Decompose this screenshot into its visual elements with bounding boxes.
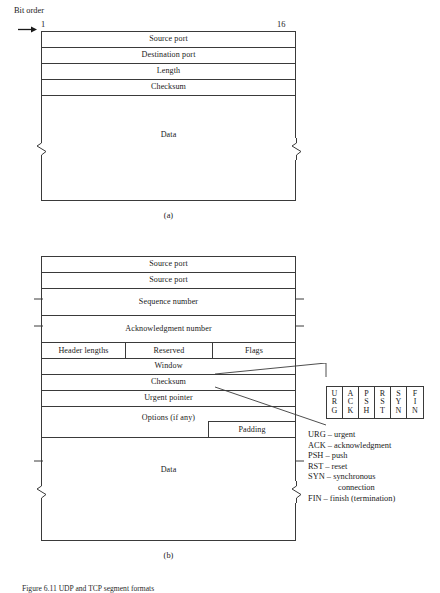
- break-symbol-icon: [35, 481, 48, 503]
- flag-cell-rst: R S T: [375, 387, 391, 418]
- tcp-cell-reserved: Reserved: [126, 343, 213, 358]
- udp-row-data: Data: [42, 96, 295, 200]
- tcp-row-source-port-1: Source port: [42, 257, 295, 273]
- legend-item-urg: URG – urgent: [308, 430, 395, 441]
- legend-item-fin: FIN – finish (termination): [308, 494, 395, 505]
- udp-row-source-port: Source port: [42, 32, 295, 48]
- bit-order-label: Bit order: [14, 6, 44, 15]
- field-extent-ticks: [34, 285, 304, 343]
- options-extent-ticks: [34, 455, 304, 467]
- tcp-cell-flags: Flags: [213, 343, 295, 358]
- legend-item-syn: SYN – synchronous: [308, 472, 395, 483]
- caption-a: (a): [41, 211, 296, 220]
- figure-caption: Figure 6.11 UDP and TCP segment formats: [22, 584, 154, 593]
- bit-order-arrow-icon: [18, 26, 38, 33]
- bit-start-label: 1: [41, 20, 45, 29]
- udp-row-destination-port: Destination port: [42, 48, 295, 64]
- tcp-row-flags-group: Header lengths Reserved Flags: [42, 343, 295, 359]
- flag-cell-fin: F I N: [407, 387, 423, 418]
- flags-detail-box: U R G A C K P S H R S T S Y N F I N: [326, 386, 424, 419]
- udp-packet-diagram: Source port Destination port Length Chec…: [41, 31, 296, 201]
- caption-b: (b): [41, 551, 296, 560]
- break-symbol-icon: [290, 481, 303, 503]
- flag-cell-urg: U R G: [327, 387, 343, 418]
- legend-item-ack: ACK – acknowledgment: [308, 441, 395, 452]
- flag-cell-syn: S Y N: [391, 387, 407, 418]
- flag-cell-psh: P S H: [359, 387, 375, 418]
- legend-item-syn-cont: connection: [308, 483, 395, 494]
- break-symbol-icon: [35, 138, 48, 160]
- flags-legend: URG – urgent ACK – acknowledgment PSH – …: [308, 430, 395, 504]
- udp-row-checksum: Checksum: [42, 80, 295, 96]
- bit-end-label: 16: [277, 20, 285, 29]
- tcp-row-data: Data: [42, 438, 295, 542]
- flag-cell-ack: A C K: [343, 387, 359, 418]
- legend-item-rst: RST – reset: [308, 462, 395, 473]
- tcp-cell-header-lengths: Header lengths: [42, 343, 126, 358]
- break-symbol-icon: [290, 138, 303, 160]
- udp-row-length: Length: [42, 64, 295, 80]
- legend-item-psh: PSH – push: [308, 451, 395, 462]
